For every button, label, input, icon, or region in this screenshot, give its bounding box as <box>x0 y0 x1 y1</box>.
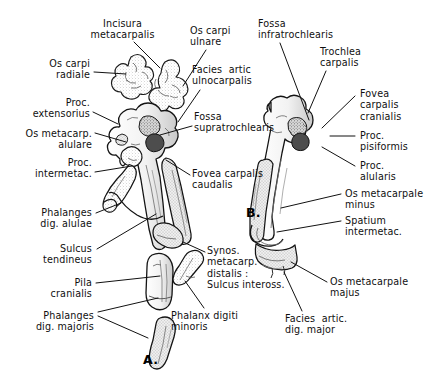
label-line: ulnocarpalis <box>192 75 276 86</box>
label-line: extensorius <box>8 108 90 119</box>
label-os-carpi-ulnare: Os carpiulnare <box>190 25 250 48</box>
leader-phalanx-digiti-minoris <box>185 281 204 308</box>
label-trochlea-carpalis: Trochleacarpalis <box>320 46 386 69</box>
label-line: Synos. <box>207 245 303 256</box>
label-line: Os carpi <box>190 25 250 36</box>
leader-spatium-intermetac <box>277 221 341 232</box>
label-proc-pisiformis: Proc.pisiformis <box>360 130 422 153</box>
label-proc-intermetac: Proc.intermetac. <box>8 157 92 180</box>
label-line: minoris <box>171 321 255 332</box>
label-line: dig. alulae <box>8 218 92 229</box>
label-line: Incisura <box>75 18 170 29</box>
label-line: distalis : <box>207 268 303 279</box>
label-line: pisiformis <box>360 141 422 152</box>
label-line: Phalanx digiti <box>171 310 255 321</box>
label-incisura-metacarpalis: Incisurametacarpalis <box>75 18 170 41</box>
label-os-carpi-radiale: Os carpiradiale <box>14 58 90 81</box>
label-line: infratrochlearis <box>258 29 342 40</box>
leader-phalanges-dig-majoris <box>98 316 148 338</box>
label-line: Proc. <box>360 130 422 141</box>
label-line: Os metacarpale <box>330 276 422 287</box>
label-fovea-carpalis-caudalis: Fovea carpaliscaudalis <box>192 168 272 191</box>
label-line: Pila <box>20 277 92 288</box>
label-spatium-intermetac: Spatiumintermetac. <box>345 215 417 238</box>
leader-fovea-carpalis-cranialis <box>322 96 355 128</box>
label-line: tendineus <box>14 254 92 265</box>
label-line: dig. majoris <box>6 321 94 332</box>
os-carpi-radiale-bone <box>112 55 154 100</box>
leader-sulcus-tendineus <box>97 214 156 249</box>
label-line: Proc. <box>8 157 92 168</box>
label-phalanges-dig-majoris: Phalangesdig. majoris <box>6 310 94 333</box>
label-line: Spatium <box>345 215 417 226</box>
label-os-metacarp-alulare: Os metacarp.alulare <box>6 128 92 151</box>
label-line: intermetac. <box>8 168 92 179</box>
label-proc-alularis: Proc.alularis <box>360 160 418 183</box>
label-line: Os carpi <box>14 58 90 69</box>
label-fovea-carpalis-cranialis: Foveacarpaliscranialis <box>360 88 422 122</box>
label-line: metacarpalis <box>75 29 170 40</box>
label-line: Fovea carpalis <box>192 168 272 179</box>
label-line: cranialis <box>360 111 422 122</box>
label-phalanx-digiti-minoris: Phalanx digitiminoris <box>171 310 255 333</box>
label-line: Fossa <box>194 111 286 122</box>
label-line: Proc. <box>360 160 418 171</box>
label-line: Proc. <box>8 97 90 108</box>
label-line: Facies artic. <box>285 313 367 324</box>
label-line: carpalis <box>320 57 386 68</box>
label-line: Trochlea <box>320 46 386 57</box>
label-line: Facies artic <box>192 64 276 75</box>
label-line: Os metacarp. <box>6 128 92 139</box>
label-phalanges-dig-alulae: Phalangesdig. alulae <box>8 207 92 230</box>
label-pila-cranialis: Pilacranialis <box>20 277 92 300</box>
label-line: intermetac. <box>345 226 417 237</box>
label-line: dig. major <box>285 324 367 335</box>
label-os-metacarpale-minus: Os metacarpaleminus <box>345 188 437 211</box>
label-facies-artic-dig-major: Facies artic.dig. major <box>285 313 367 336</box>
label-line: Sulcus inteross. <box>207 279 303 290</box>
label-fossa-infratrochlearis: Fossainfratrochlearis <box>258 18 342 41</box>
label-line: Sulcus <box>14 243 92 254</box>
label-line: caudalis <box>192 179 272 190</box>
anatomical-plate: IncisurametacarpalisOs carpiulnareFossai… <box>0 0 444 377</box>
label-line: Os metacarpale <box>345 188 437 199</box>
label-line: cranialis <box>20 288 92 299</box>
label-os-metacarpale-majus: Os metacarpalemajus <box>330 276 422 299</box>
label-line: metacarp. <box>207 256 303 267</box>
label-line: carpalis <box>360 99 422 110</box>
label-line: radiale <box>14 69 90 80</box>
label-line: Phalanges <box>8 207 92 218</box>
leader-proc-alularis <box>322 147 355 166</box>
label-line: Fossa <box>258 18 342 29</box>
label-line: minus <box>345 199 437 210</box>
leader-trochlea-carpalis <box>308 71 326 113</box>
figure-label-b: B. <box>246 205 261 220</box>
label-line: majus <box>330 287 422 298</box>
label-line: supratrochlearis <box>194 122 286 133</box>
label-line: alularis <box>360 171 418 182</box>
label-line: Fovea <box>360 88 422 99</box>
label-line: alulare <box>6 139 92 150</box>
label-facies-artic-ulnocarpalis: Facies articulnocarpalis <box>192 64 276 87</box>
label-line: ulnare <box>190 36 250 47</box>
label-line: Phalanges <box>6 310 94 321</box>
leader-proc-extensorius <box>93 112 118 124</box>
figure-label-a: A. <box>143 352 158 367</box>
label-proc-extensorius: Proc.extensorius <box>8 97 90 120</box>
label-sulcus-tendineus: Sulcustendineus <box>14 243 92 266</box>
label-fossa-supratrochlearis: Fossasupratrochlearis <box>194 111 286 134</box>
leader-os-metacarpale-minus <box>281 194 341 208</box>
label-synos-metacarp-distalis: Synos.metacarp.distalis :Sulcus inteross… <box>207 245 303 291</box>
